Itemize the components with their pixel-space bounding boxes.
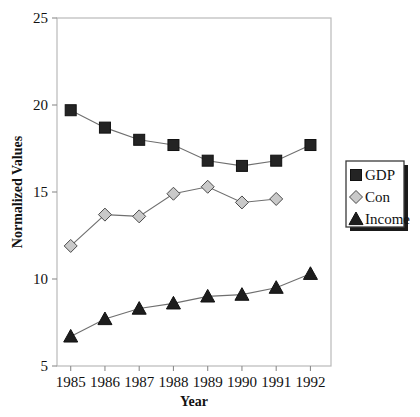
data-point-gdp [99,122,110,133]
data-point-gdp [65,105,76,116]
data-point-income [303,267,317,280]
data-point-gdp [236,160,247,171]
series-income [64,267,318,342]
legend-label-gdp: GDP [365,167,395,183]
y-axis-title: Normalized Values [10,135,25,248]
x-axis-tick-label: 1988 [158,374,188,390]
x-axis-tick-label: 1985 [56,374,86,390]
x-axis-tick-label: 1986 [90,374,121,390]
line-chart: 5101520251985198619871988198919901991199… [0,0,420,417]
data-point-income [64,329,78,342]
data-point-con [133,210,146,223]
data-point-con [167,187,180,200]
x-axis-tick-label: 1992 [295,374,325,390]
data-point-con [201,180,214,193]
legend-label-con: Con [365,189,391,205]
series-con [64,180,283,252]
data-point-gdp [271,155,282,166]
y-axis-tick-label: 20 [33,97,48,113]
x-axis-tick-label: 1989 [193,374,223,390]
x-axis-tick-label: 1990 [227,374,257,390]
y-axis-tick-label: 5 [41,358,49,374]
data-point-gdp [168,140,179,151]
plot-frame [57,18,331,366]
data-point-income [98,312,112,325]
data-point-gdp [305,140,316,151]
x-axis-title: Year [180,394,208,409]
x-axis-tick-label: 1987 [124,374,155,390]
data-point-gdp [202,155,213,166]
chart-page: 5101520251985198619871988198919901991199… [0,0,420,417]
x-axis-tick-label: 1991 [261,374,291,390]
chart-legend: GDPConIncome [346,161,410,231]
series-gdp [65,105,316,172]
data-point-income [269,281,283,294]
y-axis-tick-label: 25 [33,10,48,26]
legend-marker-gdp [351,170,362,181]
legend-label-income: Income [365,211,410,227]
y-axis-tick-label: 15 [33,184,48,200]
data-point-gdp [134,134,145,145]
data-point-con [270,192,283,205]
data-point-con [235,196,248,209]
y-axis-tick-label: 10 [33,271,48,287]
